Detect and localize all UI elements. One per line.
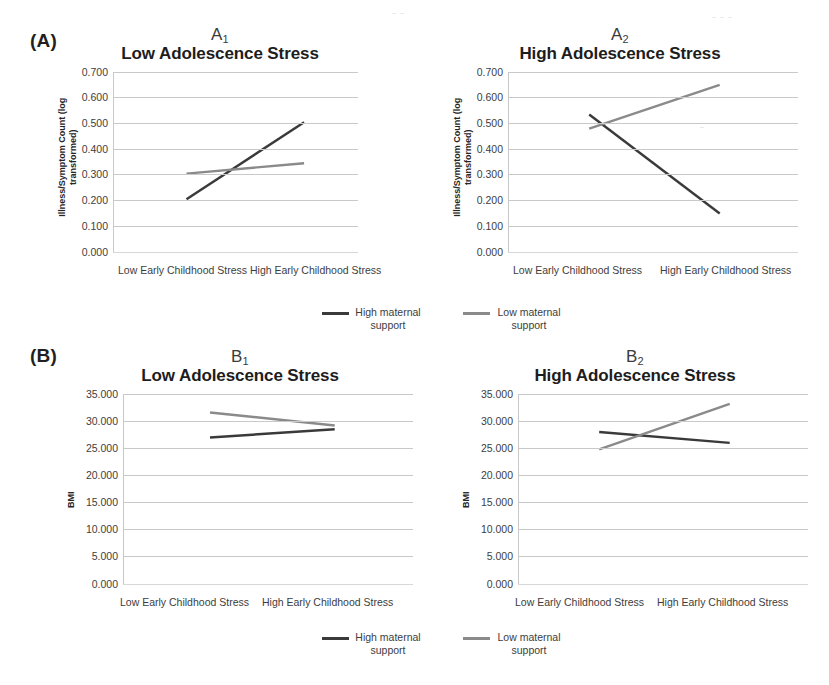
- gridline: [518, 448, 808, 449]
- chart-b1-title: Low Adolescence Stress: [60, 367, 420, 386]
- y-axis-tick-label: 20.000: [455, 469, 513, 481]
- chart-b2: B2 High Adolescence Stress BMI 0.0005.00…: [455, 348, 815, 644]
- scan-speck-top-left: ~ ~: [392, 10, 405, 17]
- gridline: [113, 149, 358, 150]
- chart-a1: A1 Low Adolescence Stress Illness/Sympto…: [60, 26, 380, 322]
- y-axis-tick-label: 0.100: [60, 220, 108, 232]
- series-line: [599, 432, 730, 443]
- series-line: [599, 403, 730, 449]
- chart-a1-panel-tag: A: [211, 25, 223, 44]
- gridline: [508, 72, 798, 73]
- legend-label-low-maternal-support: Low maternal support: [494, 306, 564, 332]
- chart-a1-title: Low Adolescence Stress: [60, 45, 380, 64]
- chart-a1-xtick-high: High Early Childhood Stress: [250, 264, 381, 276]
- gridline: [508, 149, 798, 150]
- chart-b1-plot-area: [123, 394, 413, 584]
- gridline: [123, 584, 413, 585]
- chart-b2-series: [518, 394, 808, 584]
- panel-a-label: (A): [30, 30, 57, 52]
- y-axis-tick-label: 0.600: [455, 91, 503, 103]
- y-axis-tick-label: 10.000: [60, 523, 118, 535]
- gridline: [123, 475, 413, 476]
- gridline: [123, 502, 413, 503]
- legend-b-low-line1: Low maternal: [497, 631, 560, 643]
- chart-b2-panel-tag: B: [626, 347, 638, 366]
- gridline: [518, 502, 808, 503]
- y-axis-tick-label: 0.700: [60, 66, 108, 78]
- y-axis-tick-label: 15.000: [60, 496, 118, 508]
- y-axis-tick-label: 0.200: [60, 194, 108, 206]
- y-axis-tick-label: 5.000: [60, 550, 118, 562]
- chart-b2-panel-sub: 2: [638, 355, 644, 367]
- chart-a2-plot-area: [508, 72, 798, 252]
- gridline: [113, 252, 358, 253]
- chart-b2-plot: BMI 0.0005.00010.00015.00020.00025.00030…: [455, 394, 815, 644]
- chart-b1-panel-sub: 1: [243, 355, 249, 367]
- y-axis-tick-label: 0.300: [455, 168, 503, 180]
- y-axis-tick-label: 0.600: [60, 91, 108, 103]
- legend-label-low-maternal-support-b: Low maternal support: [494, 631, 564, 657]
- y-axis-tick-label: 0.000: [455, 578, 513, 590]
- y-axis-tick-label: 0.200: [455, 194, 503, 206]
- scan-speck-a2: ~: [700, 124, 705, 131]
- chart-b2-sublabel: B2: [455, 348, 815, 366]
- gridline: [508, 226, 798, 227]
- legend-label-high-maternal-support-b: High maternal support: [353, 631, 423, 657]
- chart-b2-plot-area: [518, 394, 808, 584]
- gridline: [113, 174, 358, 175]
- y-axis-tick-label: 10.000: [455, 523, 513, 535]
- chart-a2-panel-tag: A: [611, 25, 623, 44]
- gridline: [123, 448, 413, 449]
- chart-a2: A2 High Adolescence Stress Illness/Sympt…: [455, 26, 785, 322]
- y-axis-tick-label: 20.000: [60, 469, 118, 481]
- chart-b1-panel-tag: B: [231, 347, 243, 366]
- y-axis-tick-label: 15.000: [455, 496, 513, 508]
- gridline: [518, 556, 808, 557]
- legend-swatch-high-maternal-support-b: [322, 637, 349, 640]
- chart-a1-sublabel: A1: [60, 26, 380, 44]
- series-line: [210, 412, 335, 425]
- gridline: [508, 97, 798, 98]
- y-axis-tick-label: 25.000: [455, 442, 513, 454]
- y-axis-tick-label: 0.400: [455, 143, 503, 155]
- legend-item-high-maternal-support-b: High maternal support: [322, 631, 423, 657]
- y-axis-tick-label: 0.300: [60, 168, 108, 180]
- legend-item-high-maternal-support: High maternal support: [322, 306, 423, 332]
- chart-a2-sublabel: A2: [455, 26, 785, 44]
- legend-b-high-line1: High maternal: [355, 631, 420, 643]
- chart-b2-title: High Adolescence Stress: [455, 367, 815, 386]
- chart-b2-xtick-low: Low Early Childhood Stress: [515, 596, 644, 608]
- chart-a1-plot-area: [113, 72, 358, 252]
- y-axis-tick-label: 30.000: [60, 415, 118, 427]
- gridline: [113, 200, 358, 201]
- chart-a1-series: [113, 72, 358, 252]
- chart-a1-panel-sub: 1: [223, 33, 229, 45]
- gridline: [508, 174, 798, 175]
- chart-a2-title: High Adolescence Stress: [455, 45, 785, 64]
- chart-b1-sublabel: B1: [60, 348, 420, 366]
- legend-swatch-low-maternal-support-b: [463, 637, 490, 640]
- chart-b2-xtick-high: High Early Childhood Stress: [657, 596, 788, 608]
- legend-item-low-maternal-support: Low maternal support: [463, 306, 564, 332]
- gridline: [123, 421, 413, 422]
- y-axis-tick-label: 0.000: [60, 578, 118, 590]
- panel-b-label: (B): [30, 345, 57, 367]
- chart-a1-plot: Illness/Symptom Count (log transformed) …: [60, 72, 380, 322]
- chart-a1-xtick-low: Low Early Childhood Stress: [118, 264, 247, 276]
- legend-a-high-line1: High maternal: [355, 306, 420, 318]
- chart-b1: B1 Low Adolescence Stress BMI 0.0005.000…: [60, 348, 420, 644]
- legend-panel-a: High maternal support Low maternal suppo…: [322, 306, 564, 332]
- legend-item-low-maternal-support-b: Low maternal support: [463, 631, 564, 657]
- gridline: [113, 226, 358, 227]
- y-axis-tick-label: 0.000: [455, 246, 503, 258]
- gridline: [123, 529, 413, 530]
- chart-a2-xtick-low: Low Early Childhood Stress: [513, 264, 642, 276]
- legend-a-high-line2: support: [370, 319, 405, 331]
- y-axis-tick-label: 35.000: [60, 388, 118, 400]
- gridline: [508, 123, 798, 124]
- y-axis-tick-label: 0.500: [455, 117, 503, 129]
- gridline: [113, 97, 358, 98]
- gridline: [123, 556, 413, 557]
- legend-panel-b: High maternal support Low maternal suppo…: [322, 631, 564, 657]
- chart-b1-xtick-high: High Early Childhood Stress: [262, 596, 393, 608]
